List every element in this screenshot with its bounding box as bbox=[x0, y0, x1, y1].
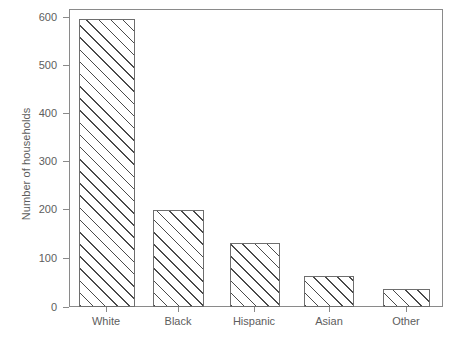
bar-black bbox=[153, 210, 204, 307]
y-tick-label-400: 400 bbox=[17, 108, 57, 119]
x-tick-mark-other bbox=[406, 307, 407, 312]
y-tick-label-600: 600 bbox=[17, 12, 57, 23]
bar-chart: Number of households 0 100 200 300 400 5… bbox=[0, 0, 455, 343]
bar-asian bbox=[304, 276, 354, 307]
bar-white bbox=[79, 19, 135, 307]
bar-hispanic bbox=[230, 243, 280, 307]
y-tick-label-0: 0 bbox=[17, 302, 57, 313]
y-tick-label-500: 500 bbox=[17, 60, 57, 71]
x-tick-mark-hispanic bbox=[254, 307, 255, 312]
bar-other bbox=[383, 289, 430, 307]
x-tick-mark-white bbox=[106, 307, 107, 312]
y-tick-label-200: 200 bbox=[17, 204, 57, 215]
x-tick-mark-asian bbox=[329, 307, 330, 312]
x-tick-label-other: Other bbox=[361, 316, 451, 327]
x-tick-mark-black bbox=[178, 307, 179, 312]
y-tick-label-300: 300 bbox=[17, 156, 57, 167]
y-tick-label-100: 100 bbox=[17, 253, 57, 264]
y-tick-mark-0 bbox=[63, 307, 69, 308]
